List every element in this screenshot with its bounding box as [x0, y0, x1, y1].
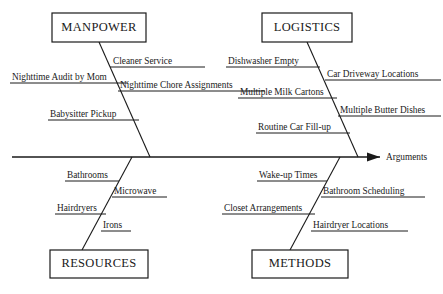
- cause-label-logistics-4: Routine Car Fill-up: [258, 122, 331, 132]
- cause-label-methods-3: Hairdryer Locations: [313, 220, 389, 230]
- category-label-resources: RESOURCES: [62, 256, 137, 270]
- category-label-logistics: LOGISTICS: [274, 20, 341, 34]
- category-label-methods: METHODS: [269, 256, 332, 270]
- bones-group: [82, 42, 358, 250]
- spine-arrow-icon: [367, 152, 380, 161]
- cause-label-logistics-0: Dishwasher Empty: [228, 56, 299, 66]
- spine-group: [12, 152, 380, 161]
- diagram-canvas: Cleaner ServiceNighttime Audit by MomNig…: [0, 0, 443, 294]
- causes-group: Cleaner ServiceNighttime Audit by MomNig…: [10, 56, 441, 231]
- cause-label-resources-2: Hairdryers: [57, 203, 97, 213]
- bone-logistics: [307, 42, 358, 157]
- cause-label-logistics-3: Multiple Butter Dishes: [340, 105, 426, 115]
- cause-label-methods-1: Bathroom Scheduling: [323, 186, 405, 196]
- effect-group: Arguments: [386, 152, 428, 162]
- cause-label-manpower-1: Nighttime Audit by Mom: [12, 72, 108, 82]
- category-label-manpower: MANPOWER: [61, 20, 137, 34]
- cause-label-logistics-2: Multiple Milk Cartons: [240, 87, 324, 97]
- effect-label: Arguments: [386, 152, 428, 162]
- cause-label-logistics-1: Car Driveway Locations: [327, 69, 419, 79]
- cause-label-manpower-2: Nighttime Chore Assignments: [120, 80, 233, 90]
- cause-label-methods-2: Closet Arrangements: [224, 203, 303, 213]
- cause-label-methods-0: Wake-up Times: [259, 170, 318, 180]
- cause-label-resources-0: Bathrooms: [67, 170, 108, 180]
- cause-label-resources-3: Irons: [103, 220, 122, 230]
- cause-label-manpower-0: Cleaner Service: [113, 56, 172, 66]
- cause-label-manpower-3: Babysitter Pickup: [50, 109, 117, 119]
- category-boxes-group: MANPOWERLOGISTICSRESOURCESMETHODS: [50, 13, 352, 278]
- cause-label-resources-1: Microwave: [114, 186, 156, 196]
- fishbone-diagram: Cleaner ServiceNighttime Audit by MomNig…: [0, 0, 443, 294]
